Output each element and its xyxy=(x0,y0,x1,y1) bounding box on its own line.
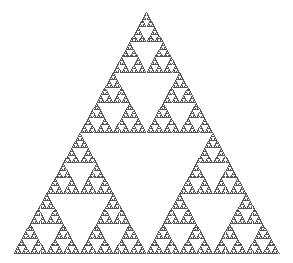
sierpinski-triangle xyxy=(0,0,293,263)
